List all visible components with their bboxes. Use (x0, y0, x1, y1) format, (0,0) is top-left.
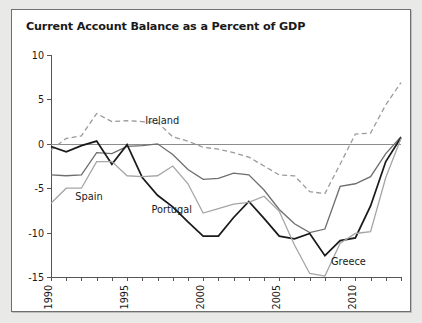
series-label-ireland: Ireland (145, 115, 179, 126)
figure-card: Current Account Balance as a Percent of … (11, 9, 411, 312)
line-chart-svg: 1050-5-10-1519901995200020052010 Ireland… (12, 10, 412, 313)
svg-text:-15: -15 (28, 272, 44, 283)
series-label-portugal: Portugal (151, 204, 192, 215)
figure-container: Current Account Balance as a Percent of … (0, 0, 422, 323)
svg-text:2005: 2005 (271, 285, 282, 309)
chart-series-labels: IrelandSpainPortugalGreece (75, 115, 366, 266)
series-label-greece: Greece (331, 256, 366, 267)
chart-series-group (51, 83, 401, 277)
svg-text:2000: 2000 (195, 285, 206, 309)
chart-plot-area: 1050-5-10-1519901995200020052010 Ireland… (12, 10, 412, 313)
svg-text:-5: -5 (34, 183, 44, 194)
svg-text:5: 5 (38, 94, 44, 105)
svg-text:10: 10 (32, 50, 44, 61)
chart-axes: 1050-5-10-1519901995200020052010 (28, 50, 401, 310)
svg-text:-10: -10 (28, 228, 44, 239)
svg-text:1995: 1995 (119, 285, 130, 309)
series-label-spain: Spain (75, 191, 102, 202)
series-line-ireland (51, 83, 401, 194)
svg-text:0: 0 (38, 139, 44, 150)
svg-text:2010: 2010 (347, 285, 358, 309)
svg-text:1990: 1990 (43, 285, 54, 309)
